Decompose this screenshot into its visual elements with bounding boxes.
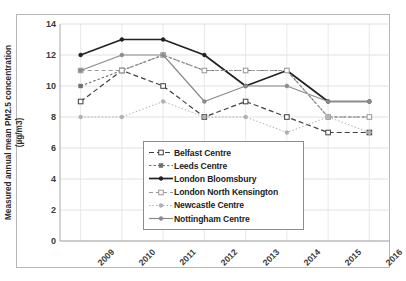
y-tick-label: 6	[36, 143, 56, 153]
x-tick-label: 2016	[384, 247, 405, 268]
legend-label: Belfast Centre	[174, 148, 231, 158]
data-point	[243, 99, 248, 104]
data-point	[326, 115, 330, 119]
series-line	[81, 55, 370, 102]
data-point	[202, 53, 206, 57]
data-point	[161, 53, 165, 57]
data-point	[285, 84, 289, 88]
data-point	[161, 84, 166, 89]
legend-item[interactable]: Nottingham Centre	[148, 212, 298, 225]
data-point	[161, 100, 165, 104]
data-point	[285, 115, 290, 120]
data-point	[243, 68, 248, 73]
data-point	[202, 115, 206, 119]
data-point	[244, 84, 248, 88]
legend-label: Leeds Centre	[174, 161, 227, 171]
data-point	[244, 115, 248, 119]
data-point	[79, 69, 83, 73]
y-tick-label: 12	[36, 50, 56, 60]
legend-key-icon	[148, 200, 174, 211]
legend-item[interactable]: Newcastle Centre	[148, 199, 298, 212]
y-tick-label: 2	[36, 205, 56, 215]
legend-key-icon	[148, 173, 174, 184]
chart-figure: Measured annual mean PM2.5 concentration…	[0, 0, 406, 281]
data-point	[326, 100, 330, 104]
legend-label: London North Kensington	[174, 187, 278, 197]
x-tick-label: 2010	[136, 247, 157, 268]
legend-item[interactable]: Leeds Centre	[148, 159, 298, 172]
data-point	[202, 68, 207, 73]
data-point	[161, 38, 165, 42]
y-tick-label: 0	[36, 236, 56, 246]
data-point	[202, 100, 206, 104]
data-point	[326, 130, 331, 135]
y-axis-ticks: 02468101214	[34, 24, 56, 241]
data-point	[79, 115, 83, 119]
legend-key-icon	[148, 213, 174, 224]
y-tick-label: 10	[36, 81, 56, 91]
x-tick-label: 2014	[301, 247, 322, 268]
legend-key-icon	[148, 187, 174, 198]
data-point	[120, 115, 124, 119]
legend-label: Nottingham Centre	[174, 214, 250, 224]
y-axis-title-line1: Measured annual mean PM2.5 concentration	[3, 45, 13, 220]
series-nottingham-centre	[79, 53, 372, 103]
y-axis-title-line2: (µg/m3)	[14, 118, 24, 148]
x-tick-label: 2011	[178, 247, 198, 267]
data-point	[78, 99, 83, 104]
x-tick-label: 2012	[219, 247, 240, 268]
legend-label: London Bloomsbury	[174, 174, 256, 184]
legend-key-icon	[148, 160, 174, 171]
chart-legend: Belfast CentreLeeds CentreLondon Bloomsb…	[143, 141, 304, 230]
data-point	[367, 115, 372, 120]
x-axis-ticks: 20092010201120122013201420152016	[60, 243, 390, 277]
data-point	[79, 53, 83, 57]
legend-item[interactable]: Belfast Centre	[148, 146, 298, 159]
data-point	[120, 53, 124, 57]
data-point	[367, 131, 371, 135]
data-point	[367, 100, 371, 104]
y-tick-label: 8	[36, 112, 56, 122]
data-point	[79, 84, 83, 88]
data-point	[120, 38, 124, 42]
y-tick-label: 4	[36, 174, 56, 184]
data-point	[285, 131, 289, 135]
data-point	[120, 68, 125, 73]
x-tick-label: 2009	[95, 247, 116, 268]
legend-label: Newcastle Centre	[174, 200, 244, 210]
x-tick-label: 2013	[260, 247, 281, 268]
legend-item[interactable]: London North Kensington	[148, 186, 298, 199]
x-tick-label: 2015	[343, 247, 364, 268]
legend-item[interactable]: London Bloomsbury	[148, 172, 298, 185]
y-tick-label: 14	[36, 19, 56, 29]
legend-key-icon	[148, 147, 174, 158]
data-point	[285, 68, 290, 73]
